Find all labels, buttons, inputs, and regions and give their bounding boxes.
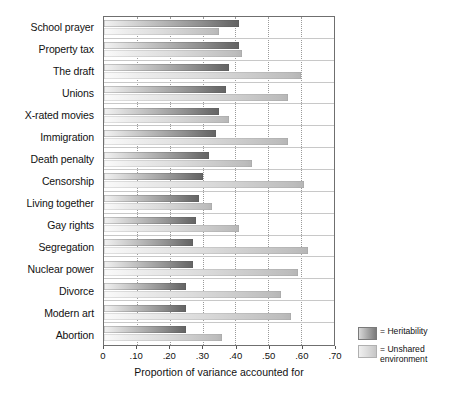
bar-unshared-environment (104, 203, 212, 210)
y-axis-label: Property tax (0, 38, 99, 60)
plot-area (103, 16, 335, 346)
x-axis-tick-label: .10 (130, 350, 143, 361)
bar-row (104, 236, 334, 258)
y-axis-label: Living together (0, 192, 99, 214)
legend-swatch-unshared-environment (358, 345, 377, 358)
bar-unshared-environment (104, 334, 222, 341)
bar-row (104, 39, 334, 61)
bar-heritability (104, 326, 186, 333)
bar-unshared-environment (104, 28, 219, 35)
x-axis-tick-label: .70 (328, 350, 341, 361)
legend-item-heritability: = Heritability (358, 327, 448, 340)
y-axis-label: X-rated movies (0, 104, 99, 126)
y-axis-label: School prayer (0, 16, 99, 38)
bar-unshared-environment (104, 269, 298, 276)
y-axis-label: Divorce (0, 280, 99, 302)
bar-unshared-environment (104, 225, 239, 232)
x-axis-tick (202, 346, 203, 349)
bar-heritability (104, 239, 193, 246)
legend-label-line2: environment (380, 354, 427, 364)
bar-chart: School prayerProperty taxThe draftUnions… (0, 0, 450, 399)
y-axis-label: Gay rights (0, 214, 99, 236)
x-axis-title: Proportion of variance accounted for (103, 366, 335, 378)
bar-heritability (104, 20, 239, 27)
bar-row (104, 192, 334, 214)
bar-heritability (104, 86, 226, 93)
bar-row (104, 83, 334, 105)
x-axis-tick-label: .60 (295, 350, 308, 361)
bar-row (104, 170, 334, 192)
bar-row (104, 104, 334, 126)
bar-heritability (104, 42, 239, 49)
y-axis-label: Abortion (0, 324, 99, 346)
bar-heritability (104, 261, 193, 268)
y-axis-label: Unions (0, 82, 99, 104)
y-axis-category-labels: School prayerProperty taxThe draftUnions… (0, 16, 99, 346)
legend-label-line1: = Unshared (380, 344, 425, 354)
x-axis-tick-label: .40 (229, 350, 242, 361)
bar-unshared-environment (104, 181, 304, 188)
bar-unshared-environment (104, 116, 229, 123)
legend-item-unshared-environment: = Unsharedenvironment (358, 345, 448, 364)
bar-rows (104, 17, 334, 345)
y-axis-label: Nuclear power (0, 258, 99, 280)
x-axis-tick-label: 0 (100, 350, 105, 361)
bar-heritability (104, 130, 216, 137)
bar-heritability (104, 108, 219, 115)
x-axis-tick (269, 346, 270, 349)
y-axis-label: Death penalty (0, 148, 99, 170)
y-axis-label: Segregation (0, 236, 99, 258)
chart-legend: = Heritability = Unsharedenvironment (358, 327, 448, 369)
bar-unshared-environment (104, 94, 288, 101)
x-axis-tick (302, 346, 303, 349)
bar-unshared-environment (104, 138, 288, 145)
bar-heritability (104, 283, 186, 290)
bar-row (104, 148, 334, 170)
y-axis-label: Censorship (0, 170, 99, 192)
bar-row (104, 279, 334, 301)
x-axis-tick (136, 346, 137, 349)
legend-swatch-heritability (358, 327, 377, 340)
bar-heritability (104, 305, 186, 312)
x-axis-tick-label: .50 (262, 350, 275, 361)
bar-heritability (104, 195, 199, 202)
bar-heritability (104, 217, 196, 224)
bar-row (104, 323, 334, 345)
bar-row (104, 126, 334, 148)
x-axis-tick-label: .20 (163, 350, 176, 361)
bar-unshared-environment (104, 247, 308, 254)
bar-unshared-environment (104, 160, 252, 167)
bar-row (104, 61, 334, 83)
bar-row (104, 301, 334, 323)
x-axis-tick (103, 346, 104, 349)
legend-label-unshared-environment: = Unsharedenvironment (380, 345, 427, 364)
bar-heritability (104, 173, 203, 180)
bar-heritability (104, 152, 209, 159)
bar-unshared-environment (104, 313, 291, 320)
bar-unshared-environment (104, 291, 281, 298)
bar-row (104, 17, 334, 39)
bar-heritability (104, 64, 229, 71)
x-axis-tick (236, 346, 237, 349)
y-axis-label: The draft (0, 60, 99, 82)
y-axis-label: Modern art (0, 302, 99, 324)
x-axis-tick (335, 346, 336, 349)
x-axis-tick (169, 346, 170, 349)
bar-unshared-environment (104, 50, 242, 57)
bar-row (104, 214, 334, 236)
legend-label-heritability: = Heritability (380, 327, 428, 337)
x-axis-tick-label: .30 (196, 350, 209, 361)
bar-unshared-environment (104, 72, 301, 79)
bar-row (104, 257, 334, 279)
y-axis-label: Immigration (0, 126, 99, 148)
grid-line (334, 17, 335, 345)
